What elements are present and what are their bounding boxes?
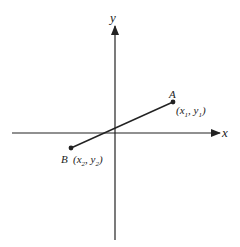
point-b-coords: (x2, y2) <box>73 153 103 168</box>
point-a-name: A <box>168 88 176 100</box>
y-axis-label: y <box>108 10 116 25</box>
segment-ab <box>71 102 173 148</box>
x-axis-label: x <box>221 125 228 140</box>
point-a-coords: (x1, y1) <box>176 104 206 119</box>
point-b <box>69 146 74 151</box>
coordinate-diagram: y x A (x1, y1) B (x2, y2) <box>0 0 240 247</box>
point-a <box>171 100 176 105</box>
point-b-name: B <box>61 153 68 165</box>
